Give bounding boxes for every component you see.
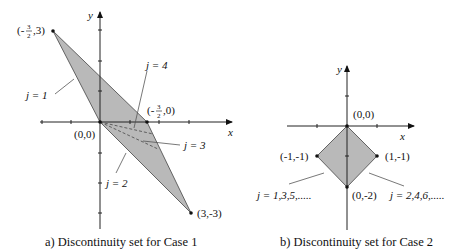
vertex-top-a bbox=[51, 29, 55, 33]
caption-b: b) Discontinuity set for Case 2 bbox=[280, 235, 433, 249]
label-origin-b: (0,0) bbox=[353, 108, 374, 121]
label-mid-point-a: (- 3 2 ,0) bbox=[147, 103, 175, 120]
svg-text:,3): ,3) bbox=[33, 24, 45, 37]
diagram-canvas: x y (- 3 2 ,3) (- 3 2 ,0) (0,0) (3,-3) j… bbox=[0, 0, 459, 251]
label-bottom-b: (0,-2) bbox=[352, 189, 377, 202]
label-j1: j = 1 bbox=[24, 89, 47, 101]
y-axis-label-b: y bbox=[336, 63, 342, 75]
label-origin-a: (0,0) bbox=[74, 128, 95, 141]
svg-text:2: 2 bbox=[157, 112, 161, 120]
leader-j1 bbox=[55, 79, 74, 94]
leader-odd bbox=[289, 173, 324, 184]
svg-text:(-: (- bbox=[17, 24, 25, 37]
label-j3: j = 3 bbox=[182, 139, 206, 151]
svg-text:3: 3 bbox=[27, 23, 31, 31]
x-axis-label-a: x bbox=[227, 126, 233, 138]
label-bottom-point-a: (3,-3) bbox=[197, 207, 222, 220]
leader-even bbox=[369, 173, 404, 186]
y-axis-label-a: y bbox=[87, 9, 93, 21]
panel-a: x y (- 3 2 ,3) (- 3 2 ,0) (0,0) (3,-3) j… bbox=[17, 9, 233, 249]
svg-text:(-: (- bbox=[147, 104, 155, 117]
vertex-left-b bbox=[315, 154, 319, 158]
label-right-b: (1,-1) bbox=[385, 150, 410, 163]
svg-text:,0): ,0) bbox=[163, 104, 175, 117]
panel-b: x y (0,0) (-1,-1) (1,-1) (0,-2) j = 1,3,… bbox=[255, 63, 444, 249]
vertex-origin-b bbox=[345, 124, 349, 128]
label-even-j: j = 2,4,6,..... bbox=[388, 189, 444, 201]
label-left-b: (-1,-1) bbox=[280, 150, 309, 163]
vertex-right-b bbox=[375, 154, 379, 158]
label-odd-j: j = 1,3,5,..... bbox=[255, 189, 311, 201]
vertex-mid-a bbox=[145, 120, 149, 124]
leader-j2 bbox=[116, 153, 126, 173]
vertex-origin-a bbox=[98, 120, 102, 124]
svg-text:3: 3 bbox=[157, 103, 161, 111]
vertex-bottom-a bbox=[189, 211, 193, 215]
svg-text:2: 2 bbox=[27, 32, 31, 40]
label-j4: j = 4 bbox=[144, 59, 168, 71]
vertex-bottom-b bbox=[345, 185, 349, 189]
label-top-point-a: (- 3 2 ,3) bbox=[17, 23, 45, 40]
label-j2: j = 2 bbox=[104, 177, 128, 189]
caption-a: a) Discontinuity set for Case 1 bbox=[45, 235, 197, 249]
x-axis-label-b: x bbox=[399, 130, 405, 142]
